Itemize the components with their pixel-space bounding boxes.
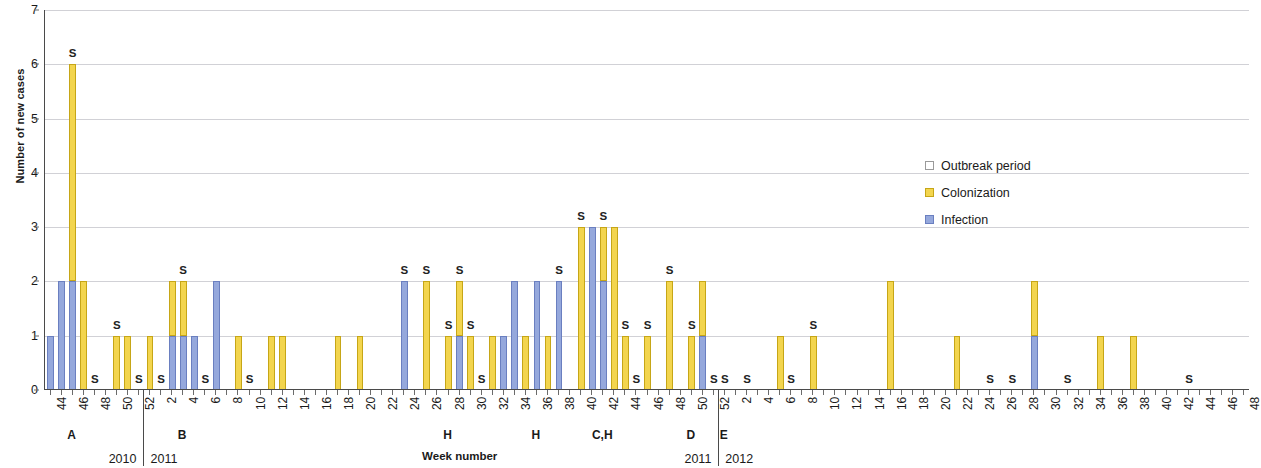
x-tick-mark	[746, 390, 747, 395]
x-tick-mark	[481, 390, 482, 395]
x-tick-mark	[160, 390, 161, 395]
x-tick-mark	[237, 390, 238, 395]
bar-segment-colonization	[611, 227, 618, 390]
bar-column	[169, 281, 176, 390]
bar-segment-colonization	[467, 336, 474, 390]
legend-label: Colonization	[941, 186, 1010, 200]
x-tick-mark	[868, 390, 869, 395]
bar-segment-colonization	[169, 281, 176, 335]
bar-segment-colonization	[699, 281, 706, 335]
x-tick-label: 22	[386, 397, 400, 410]
bar-segment-infection	[556, 281, 563, 390]
bar-column	[699, 281, 706, 390]
x-tick-label: 4	[187, 397, 201, 403]
bar-segment-colonization	[810, 336, 817, 390]
screening-marker: S	[688, 319, 696, 331]
screening-marker: S	[91, 373, 99, 385]
x-tick-mark	[658, 390, 659, 395]
outbreak-period-label: A	[67, 428, 76, 442]
x-tick-label: 24	[983, 397, 997, 410]
bar-column	[578, 227, 585, 390]
outbreak-period-label: C,H	[592, 428, 613, 442]
bar-segment-colonization	[489, 336, 496, 390]
x-tick-label: 32	[497, 397, 511, 410]
y-tick-mark	[34, 118, 39, 119]
legend-item-outbreak: Outbreak period	[925, 152, 1031, 179]
bar-column	[556, 281, 563, 390]
y-tick-mark	[34, 390, 39, 391]
bar-segment-colonization	[887, 281, 894, 390]
x-tick-mark	[768, 390, 769, 395]
bar-segment-colonization	[644, 336, 651, 390]
x-tick-label: 4	[762, 397, 776, 403]
x-tick-mark	[647, 390, 648, 395]
x-tick-mark	[635, 390, 636, 395]
screening-marker: S	[423, 264, 431, 276]
bar-segment-colonization	[147, 336, 154, 390]
screening-marker: S	[478, 373, 486, 385]
x-axis: Week number 4446485052246810121416182022…	[44, 390, 1249, 468]
bar-column	[589, 227, 596, 390]
y-tick-mark	[34, 227, 39, 228]
x-tick-label: 12	[850, 397, 864, 410]
bar-segment-colonization	[1031, 281, 1038, 335]
bar-segment-colonization	[522, 336, 529, 390]
bar-column	[688, 336, 695, 390]
legend-swatch-colonization	[925, 188, 934, 197]
screening-marker: S	[135, 373, 143, 385]
x-tick-mark	[1078, 390, 1079, 395]
screening-marker: S	[201, 373, 209, 385]
x-tick-mark	[1221, 390, 1222, 395]
bar-column	[124, 336, 131, 390]
x-tick-label: 14	[298, 397, 312, 410]
bar-segment-infection	[69, 281, 76, 390]
x-tick-label: 48	[99, 397, 113, 410]
bar-segment-infection	[180, 336, 187, 390]
x-tick-label: 24	[408, 397, 422, 410]
bar-column	[69, 64, 76, 390]
x-tick-mark	[138, 390, 139, 395]
x-tick-mark	[1011, 390, 1012, 395]
x-tick-mark	[50, 390, 51, 395]
bar-segment-colonization	[578, 227, 585, 390]
x-tick-mark	[812, 390, 813, 395]
bar-column	[887, 281, 894, 390]
x-tick-mark	[857, 390, 858, 395]
x-tick-mark	[1044, 390, 1045, 395]
x-tick-mark	[779, 390, 780, 395]
y-tick-mark	[34, 64, 39, 65]
x-tick-label: 46	[1226, 397, 1240, 410]
x-tick-mark	[602, 390, 603, 395]
bar-column	[180, 281, 187, 390]
x-tick-label: 40	[1160, 397, 1174, 410]
outbreak-period-label: E	[720, 428, 728, 442]
x-tick-mark	[890, 390, 891, 395]
gridline	[45, 10, 1249, 11]
gridline	[45, 173, 1249, 174]
x-tick-mark	[304, 390, 305, 395]
bar-segment-colonization	[80, 281, 87, 390]
x-tick-mark	[1232, 390, 1233, 395]
x-tick-mark	[624, 390, 625, 395]
bar-column	[445, 336, 452, 390]
x-tick-label: 28	[1027, 397, 1041, 410]
year-label: 2010	[109, 452, 144, 466]
bar-column	[534, 281, 541, 390]
x-tick-mark	[1144, 390, 1145, 395]
x-tick-mark	[193, 390, 194, 395]
screening-marker: S	[400, 264, 408, 276]
x-tick-mark	[105, 390, 106, 395]
x-tick-mark	[1243, 390, 1244, 395]
x-tick-label: 16	[320, 397, 334, 410]
screening-marker: S	[445, 319, 453, 331]
bar-segment-colonization	[622, 336, 629, 390]
x-tick-mark	[956, 390, 957, 395]
x-tick-mark	[1199, 390, 1200, 395]
x-tick-mark	[414, 390, 415, 395]
x-tick-mark	[1177, 390, 1178, 395]
bar-column	[511, 281, 518, 390]
x-tick-mark	[1210, 390, 1211, 395]
bar-segment-colonization	[600, 227, 607, 281]
y-tick-mark	[34, 335, 39, 336]
x-tick-mark	[72, 390, 73, 395]
